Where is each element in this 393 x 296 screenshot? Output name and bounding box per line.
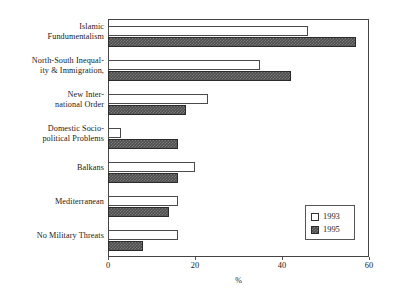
category-label-6: No Military Threats	[0, 231, 104, 241]
category-label-1: North-South Inequal-ity & Immigration,	[0, 56, 104, 75]
bar-1993-0	[108, 26, 308, 36]
x-axis-title: %	[108, 276, 369, 285]
x-tick-40	[282, 257, 283, 260]
bar-1993-4	[108, 162, 195, 172]
bar-1995-3	[108, 139, 178, 149]
category-label-line: Fundumentalism	[0, 32, 104, 42]
x-tick-0	[108, 257, 109, 260]
legend-swatch-1995-icon	[311, 226, 319, 234]
legend-item-1993[interactable]: 1993	[311, 210, 354, 223]
category-label-0: IslamicFundumentalism	[0, 22, 104, 41]
x-axis-ticks	[108, 257, 369, 261]
legend-item-1995[interactable]: 1995	[311, 223, 354, 236]
bar-1993-3	[108, 128, 121, 138]
category-label-2: New Inter-national Order	[0, 90, 104, 109]
category-label-line: Mediterranean	[0, 197, 104, 207]
x-tick-60	[369, 257, 370, 260]
bar-1993-2	[108, 94, 208, 104]
category-label-line: No Military Threats	[0, 231, 104, 241]
category-label-line: ity & Immigration,	[0, 66, 104, 76]
bar-1995-2	[108, 105, 186, 115]
x-tick-label-0: 0	[106, 261, 110, 270]
bar-1995-4	[108, 173, 178, 183]
category-label-5: Mediterranean	[0, 197, 104, 207]
bar-1995-1	[108, 71, 291, 81]
legend-label-1993: 1993	[323, 212, 340, 222]
category-label-line: national Order	[0, 100, 104, 110]
bar-1995-6	[108, 241, 143, 251]
bar-1993-1	[108, 60, 260, 70]
bar-1995-5	[108, 207, 169, 217]
x-tick-20	[195, 257, 196, 260]
category-label-3: Domestic Socio-political Problems	[0, 124, 104, 143]
legend: 1993 1995	[305, 205, 355, 240]
category-label-line: political Problems	[0, 134, 104, 144]
category-label-line: Domestic Socio-	[0, 124, 104, 134]
x-tick-label-20: 20	[191, 261, 199, 270]
x-tick-label-60: 60	[365, 261, 373, 270]
bar-1995-0	[108, 37, 356, 47]
category-label-4: Balkans	[0, 163, 104, 173]
bar-1993-5	[108, 196, 178, 206]
bar-chart: IslamicFundumentalismNorth-South Inequal…	[0, 0, 393, 296]
category-label-line: North-South Inequal-	[0, 56, 104, 66]
x-tick-label-40: 40	[278, 261, 286, 270]
category-label-line: New Inter-	[0, 90, 104, 100]
bar-1993-6	[108, 230, 178, 240]
legend-label-1995: 1995	[323, 225, 340, 235]
legend-swatch-1993-icon	[311, 213, 319, 221]
category-label-line: Islamic	[0, 22, 104, 32]
category-label-line: Balkans	[0, 163, 104, 173]
